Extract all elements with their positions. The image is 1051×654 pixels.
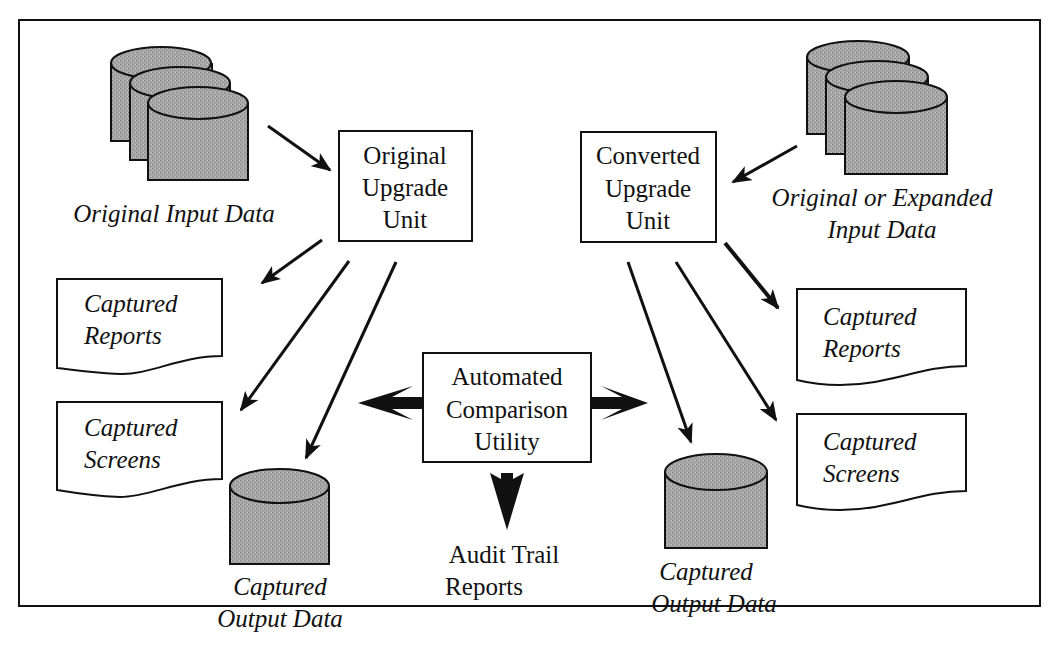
right-captured-screens-label-line2: Screens xyxy=(823,460,900,487)
right-captured-reports-label-line1: Captured xyxy=(823,303,917,330)
arrow-original-unit-to-reports xyxy=(262,240,322,283)
arrow-converted-unit-to-output xyxy=(628,262,691,442)
bold-arrow-down-icon xyxy=(490,473,524,530)
audit-trail-label-line1: Audit Trail xyxy=(449,541,560,568)
converted-upgrade-unit-label-line3: Unit xyxy=(626,207,671,234)
expanded-input-data-label-line2: Input Data xyxy=(826,216,936,243)
arrow-input-to-original-unit xyxy=(268,126,330,170)
expanded-input-data-label-line1: Original or Expanded xyxy=(772,184,993,211)
left-captured-screens-label-line1: Captured xyxy=(84,414,178,441)
arrow-expanded-input-to-converted-unit xyxy=(733,146,797,182)
audit-trail-label-line2: Reports xyxy=(445,573,523,600)
left-captured-reports-label-line1: Captured xyxy=(84,290,178,317)
right-captured-output-label-line1: Captured xyxy=(659,558,753,585)
arrow-original-unit-to-screens xyxy=(241,261,349,410)
comparison-label-line3: Utility xyxy=(474,428,540,455)
original-upgrade-unit-label-line2: Upgrade xyxy=(362,174,448,201)
left-captured-screens-label-line2: Screens xyxy=(84,446,161,473)
expanded-input-data-icon xyxy=(807,41,947,174)
right-captured-screens-label-line1: Captured xyxy=(823,428,917,455)
original-input-data-icon xyxy=(111,47,248,180)
arrow-converted-unit-to-reports xyxy=(725,243,778,308)
left-captured-output-label-line2: Output Data xyxy=(217,605,343,632)
comparison-label-line2: Comparison xyxy=(446,396,569,423)
left-captured-reports-label-line2: Reports xyxy=(83,322,162,349)
bold-arrow-right-icon xyxy=(591,386,648,420)
diagram-canvas: Original Input Data Original Upgrade Uni… xyxy=(0,0,1051,654)
comparison-label-line1: Automated xyxy=(451,363,563,390)
left-captured-output-icon xyxy=(230,469,329,564)
converted-upgrade-unit-label-line2: Upgrade xyxy=(605,175,691,202)
bold-arrow-left-icon xyxy=(358,386,423,420)
original-upgrade-unit-label-line1: Original xyxy=(363,142,446,169)
original-upgrade-unit-label-line3: Unit xyxy=(383,206,428,233)
arrow-original-unit-to-output xyxy=(306,262,396,458)
converted-upgrade-unit-label-line1: Converted xyxy=(596,142,701,169)
left-captured-output-label-line1: Captured xyxy=(233,573,327,600)
right-captured-output-label-line2: Output Data xyxy=(651,590,777,617)
right-captured-reports-label-line2: Reports xyxy=(822,335,901,362)
original-input-data-label: Original Input Data xyxy=(73,200,274,227)
right-captured-output-icon xyxy=(665,454,767,548)
